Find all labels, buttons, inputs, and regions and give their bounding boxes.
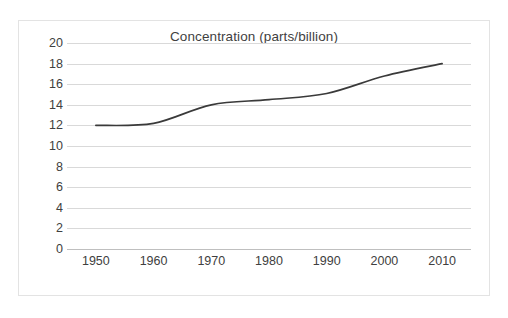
x-axis-tick-labels: 1950196019701980199020002010 (67, 255, 471, 275)
y-axis-tick-label: 10 (19, 140, 63, 153)
y-axis-tick-label: 18 (19, 57, 63, 70)
y-axis-tick-label: 6 (19, 181, 63, 194)
x-axis-tick-label: 2010 (428, 255, 456, 268)
y-axis-tick-label: 16 (19, 78, 63, 91)
y-axis-tick-labels: 20181614121086420 (19, 43, 63, 249)
chart-figure: Concentration (parts/billion) 2018161412… (18, 20, 490, 296)
x-axis-tick-label: 2000 (371, 255, 399, 268)
y-axis-tick-label: 12 (19, 119, 63, 132)
series-line (96, 64, 442, 126)
gridline (67, 249, 471, 250)
y-axis-tick-label: 8 (19, 160, 63, 173)
x-axis-tick-label: 1990 (313, 255, 341, 268)
x-axis-tick-label: 1970 (197, 255, 225, 268)
y-axis-tick-label: 0 (19, 243, 63, 256)
y-axis-tick-label: 4 (19, 202, 63, 215)
x-axis-tick-label: 1980 (255, 255, 283, 268)
y-axis-tick-label: 14 (19, 99, 63, 112)
y-axis-tick-label: 2 (19, 222, 63, 235)
y-axis-tick-label: 20 (19, 37, 63, 50)
x-axis-tick-label: 1960 (140, 255, 168, 268)
chart-title: Concentration (parts/billion) (19, 29, 489, 44)
x-axis-tick-label: 1950 (82, 255, 110, 268)
series-line-chart (67, 43, 471, 249)
plot-area (67, 43, 471, 249)
